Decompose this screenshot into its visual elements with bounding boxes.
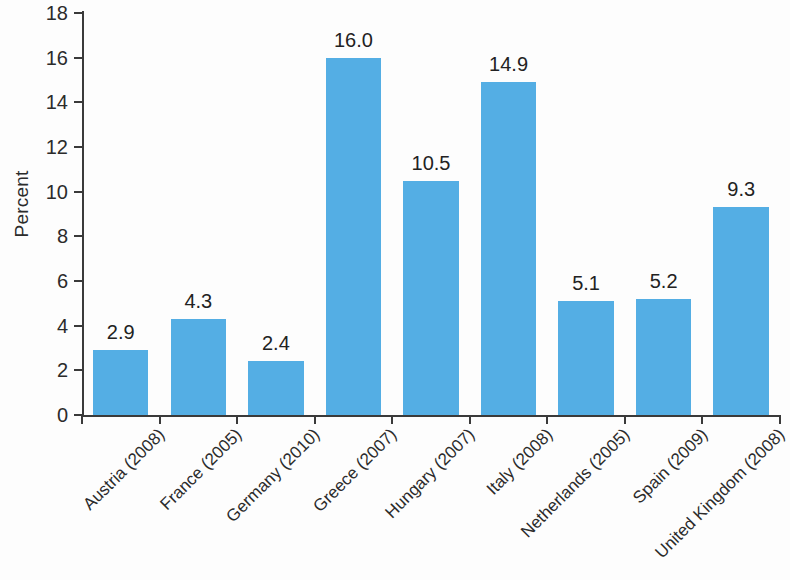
bar-group: 16.0 <box>326 0 381 415</box>
bar-value-label: 5.2 <box>636 270 691 293</box>
bar-value-label: 4.3 <box>171 290 226 313</box>
x-axis-category-label-text: United Kingdom (2008) <box>652 425 790 563</box>
bar-group: 10.5 <box>403 0 458 415</box>
x-axis-tick <box>81 415 83 424</box>
bar-value-label: 16.0 <box>326 29 381 52</box>
bar-group: 2.4 <box>248 0 303 415</box>
bar-value-label: 9.3 <box>713 178 768 201</box>
x-axis-category-label-text: Spain (2009) <box>629 425 712 508</box>
bar-group: 4.3 <box>171 0 226 415</box>
bar-group: 14.9 <box>481 0 536 415</box>
bar-value-label: 14.9 <box>481 53 536 76</box>
bar-value-label: 2.9 <box>93 321 148 344</box>
x-axis-category-label-text: Austria (2008) <box>79 425 169 515</box>
bar-group: 9.3 <box>713 0 768 415</box>
x-axis-category-label-text: Italy (2008) <box>482 425 556 499</box>
bar-group: 2.9 <box>93 0 148 415</box>
bar[interactable] <box>93 350 148 415</box>
bar-group: 5.2 <box>636 0 691 415</box>
bar-group: 5.1 <box>558 0 613 415</box>
bar-value-label: 10.5 <box>403 152 458 175</box>
bar-value-label: 5.1 <box>558 272 613 295</box>
bar-value-label: 2.4 <box>248 332 303 355</box>
